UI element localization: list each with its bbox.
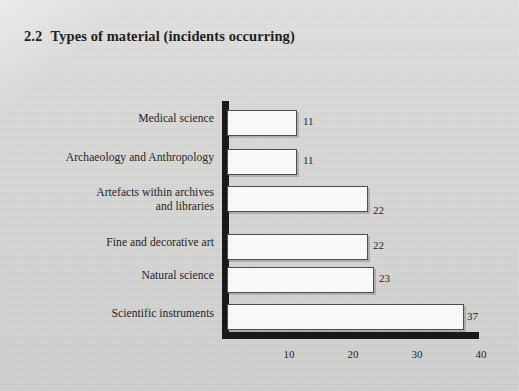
x-tick-label: 20 [348,348,359,360]
bar[interactable] [227,234,368,260]
bar[interactable] [227,149,297,175]
bar-value-label: 22 [373,239,384,251]
x-axis-line [222,332,479,339]
category-label-line: Artefacts within archives [96,186,214,199]
category-label: Medical science [18,112,214,126]
bar-value-label: 37 [467,310,478,322]
category-label: Natural science [18,269,214,283]
category-label-line: Archaeology and Anthropology [66,151,214,164]
bar-value-label: 11 [303,115,314,127]
bar-value-label: 23 [379,272,390,284]
category-label-line: and libraries [156,200,214,213]
category-label-line: Medical science [138,112,214,125]
category-label: Archaeology and Anthropology [18,151,214,165]
bar[interactable] [227,110,297,136]
category-label-line: Natural science [141,269,214,282]
chart-page: 2.2Types of material (incidents occurrin… [0,0,519,391]
x-tick-label: 30 [412,348,423,360]
x-tick-label: 10 [284,348,295,360]
category-label: Artefacts within archives and libraries [18,186,214,213]
category-label-line: Scientific instruments [111,307,214,320]
category-label: Scientific instruments [18,307,214,321]
x-tick-label: 40 [476,348,487,360]
bar-value-label: 22 [373,204,384,216]
category-label: Fine and decorative art [18,236,214,250]
bar-chart: Medical science 11 Archaeology and Anthr… [0,0,519,391]
category-label-line: Fine and decorative art [106,236,214,249]
bar[interactable] [227,304,464,330]
bar[interactable] [227,186,368,212]
bar-value-label: 11 [303,154,314,166]
bar[interactable] [227,267,374,293]
